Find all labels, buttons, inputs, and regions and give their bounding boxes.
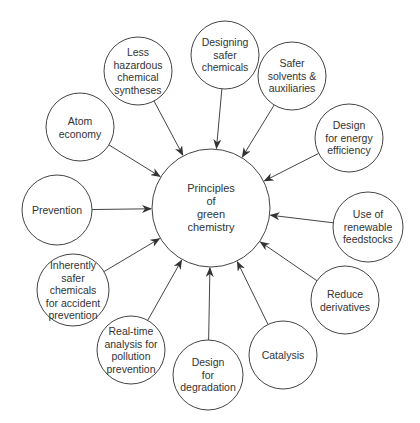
node-label-safer-solvents-auxiliaries: Safer solvents & auxiliaries: [261, 57, 323, 95]
arrow-designing-safer-chemicals: [216, 89, 221, 148]
arrow-catalysis: [237, 262, 268, 325]
arrow-prevention: [92, 209, 151, 210]
node-label-use-of-renewable-feedstocks: Use of renewable feedstocks: [336, 208, 400, 246]
arrow-use-of-renewable-feedstocks: [271, 215, 334, 223]
node-label-inherently-safer-chemicals: Inherently safer chemicals for accident …: [40, 259, 106, 322]
node-label-atom-economy: Atom economy: [49, 115, 111, 140]
arrow-safer-solvents-auxiliaries: [242, 105, 274, 157]
arrow-inherently-safer-chemicals: [104, 239, 159, 272]
center-label: Principles of green chemistry: [155, 182, 267, 234]
node-label-designing-safer-chemicals: Designing safer chemicals: [194, 36, 256, 74]
arrow-design-for-degradation: [209, 268, 210, 340]
arrow-reduce-derivatives: [260, 242, 317, 281]
node-label-prevention: Prevention: [25, 204, 89, 217]
node-label-catalysis: Catalysis: [252, 349, 314, 362]
arrow-atom-economy: [109, 145, 160, 177]
node-label-real-time-analysis: Real-time analysis for pollution prevent…: [100, 325, 162, 375]
node-label-design-for-degradation: Design for degradation: [176, 356, 240, 394]
arrow-design-for-energy-efficiency: [265, 153, 319, 180]
arrow-less-hazardous-chemical-syntheses: [154, 101, 183, 155]
node-label-design-for-energy-efficiency: Design for energy efficiency: [318, 119, 380, 157]
node-label-reduce-derivatives: Reduce derivatives: [314, 288, 376, 313]
node-label-less-hazardous-chemical-syntheses: Less hazardous chemical syntheses: [107, 46, 169, 96]
arrow-real-time-analysis: [148, 260, 182, 320]
